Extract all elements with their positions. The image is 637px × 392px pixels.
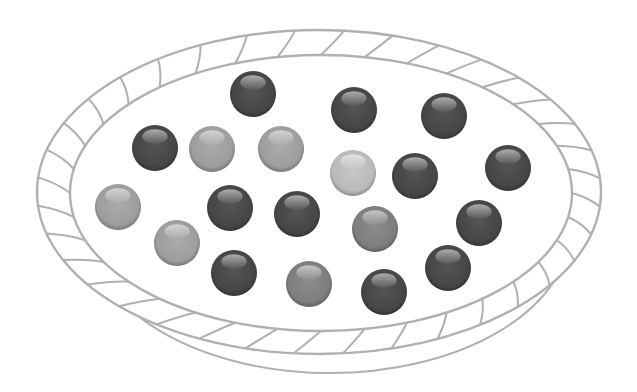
marble-dark [331, 87, 377, 133]
marble-mid [286, 261, 332, 307]
marble-light [95, 184, 141, 230]
marble-dark [274, 191, 320, 237]
marble-dark [485, 145, 531, 191]
marble-light [154, 220, 200, 266]
marbles-in-basket-illustration [0, 0, 637, 392]
marble-lightest [330, 150, 376, 196]
marble-dark [392, 153, 438, 199]
marble-dark [421, 93, 467, 139]
marble-light [189, 126, 235, 172]
marble-dark [456, 200, 502, 246]
marble-dark [207, 185, 253, 231]
marble-dark [361, 269, 407, 315]
marble-dark [132, 125, 178, 171]
marble-dark [211, 250, 257, 296]
marble-light [258, 126, 304, 172]
marble-mid [352, 206, 398, 252]
marble-dark [425, 245, 471, 291]
marble-dark [230, 71, 276, 117]
basket-weave-strand [538, 123, 575, 124]
